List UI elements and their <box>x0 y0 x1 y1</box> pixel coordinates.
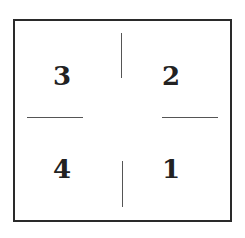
quadrant-top-right-label: 2 <box>156 63 186 89</box>
quadrant-bottom-right-label: 1 <box>156 156 186 182</box>
divider-right <box>162 117 218 118</box>
quadrant-top-left-label: 3 <box>47 63 77 89</box>
quadrant-box: 3 2 4 1 <box>13 19 232 222</box>
divider-bottom <box>122 161 123 207</box>
divider-top <box>121 33 122 78</box>
divider-left <box>27 117 83 118</box>
quadrant-bottom-left-label: 4 <box>47 156 77 182</box>
